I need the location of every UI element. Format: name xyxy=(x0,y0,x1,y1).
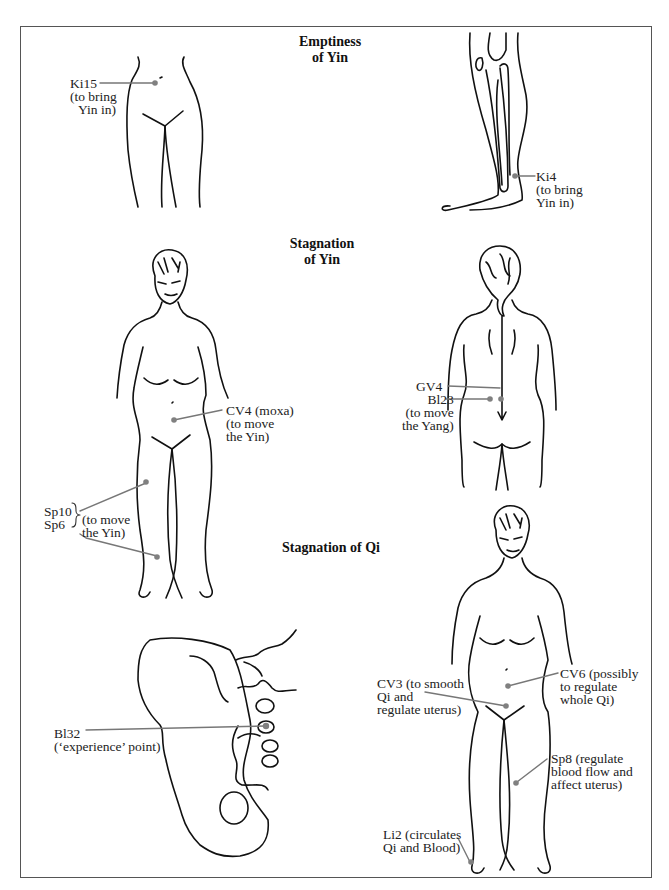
lower-leg-figure xyxy=(442,33,527,210)
point-bl23 xyxy=(487,396,493,402)
label-cv4: CV4 (moxa) (to move the Yin) xyxy=(226,404,294,443)
point-gv4 xyxy=(498,396,504,402)
front-figure-yin xyxy=(117,250,228,598)
heading-emptiness-of-yin: Emptiness of Yin xyxy=(270,34,390,66)
point-li2 xyxy=(468,859,474,865)
brace-icon xyxy=(72,503,80,527)
back-figure-yin xyxy=(448,246,556,490)
label-li2: Li2 (circulates Qi and Blood) xyxy=(383,828,461,854)
point-cv4 xyxy=(171,417,177,423)
label-bl32: Bl32 (‘experience’ point) xyxy=(54,727,161,753)
label-bl23: Bl23 (to move the Yang) xyxy=(402,393,454,432)
sacrum-figure xyxy=(138,630,296,856)
point-ki15 xyxy=(152,80,158,86)
lower-torso-figure xyxy=(127,57,203,207)
point-sp10 xyxy=(143,479,149,485)
point-cv3 xyxy=(503,703,509,709)
point-sp6 xyxy=(154,554,160,560)
point-cv6 xyxy=(505,683,511,689)
point-ki4 xyxy=(512,173,518,179)
label-cv6: CV6 (possibly to regulate whole Qi) xyxy=(560,667,638,706)
label-ki15: Ki15 (to bring Yin in) xyxy=(70,77,117,116)
label-sp8: Sp8 (regulate blood flow and affect uter… xyxy=(551,752,633,791)
front-figure-qi xyxy=(452,506,572,873)
heading-stagnation-of-yin: Stagnation of Yin xyxy=(262,236,382,268)
label-ki4: Ki4 (to bring Yin in) xyxy=(536,170,583,209)
heading-stagnation-of-qi: Stagnation of Qi xyxy=(282,540,422,556)
label-cv3: CV3 (to smooth Qi and regulate uterus) xyxy=(377,677,464,716)
label-sp10-sp6: Sp10 Sp6 xyxy=(44,505,72,531)
point-bl32 xyxy=(263,723,269,729)
label-sp10-sp6-note: (to move the Yin) xyxy=(82,513,130,539)
point-sp8 xyxy=(513,780,519,786)
